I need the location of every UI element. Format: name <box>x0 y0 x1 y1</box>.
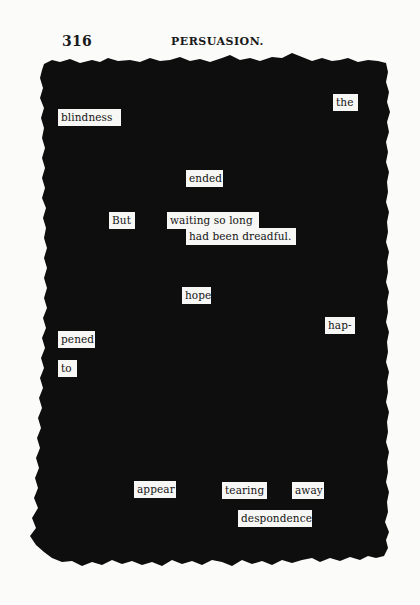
word-the: the <box>333 94 358 111</box>
word-appear: appear <box>134 481 176 498</box>
word-but: But <box>109 212 135 229</box>
word-ended: ended <box>186 170 223 187</box>
word-blindness: blindness <box>58 109 121 126</box>
word-had-been-dreadful: had been dreadful. <box>186 228 296 245</box>
word-to: to <box>58 360 77 377</box>
word-hap: hap- <box>325 317 355 334</box>
word-pened: pened <box>58 331 95 348</box>
word-waiting-so-long: waiting so long <box>167 212 259 229</box>
word-hope: hope <box>182 287 211 304</box>
word-tearing: tearing <box>222 482 267 499</box>
word-away: away <box>292 482 324 499</box>
word-despondence: despondence <box>238 510 312 527</box>
